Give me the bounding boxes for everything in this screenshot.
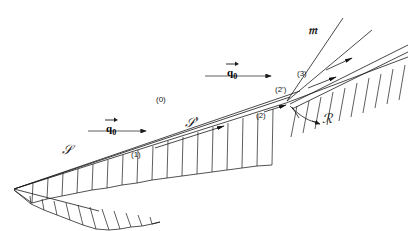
outer-upper-line [14, 91, 300, 189]
vector-overbar-icon [105, 117, 118, 122]
shock-diagram-svg [0, 0, 408, 231]
region-3-upper-line [290, 45, 408, 104]
hatch-lower-wedge-edge [14, 190, 160, 230]
label-mach-stem: 𝔪 [308, 24, 317, 36]
label-freestream-q0-upper: q0 [227, 62, 237, 81]
flow-arrow-region-3a [326, 58, 352, 70]
label-reflected-shock: ℛ [322, 112, 332, 125]
label-freestream-q0-lower: q0 [106, 118, 116, 137]
hatching-wedge-lower [30, 196, 152, 230]
label-region-3: (3) [297, 70, 307, 78]
label-region-2: (2) [256, 112, 266, 120]
label-region-1: (1) [131, 151, 141, 159]
label-region-2-prime: (2') [275, 86, 286, 94]
label-region-0: (0) [156, 96, 166, 104]
q-subscript-lower: 0 [112, 128, 116, 137]
figure-canvas: (0) (1) (2) (2') (3) 𝒮 𝒮' 𝔪 ℛ q0 q0 [0, 0, 408, 231]
wedge-lower-boundary [14, 189, 99, 211]
label-shock-S: 𝒮 [62, 143, 72, 156]
region-3-lower-line [292, 52, 408, 109]
vector-overbar-icon [226, 61, 239, 66]
label-shock-S-prime: 𝒮' [185, 116, 199, 129]
q-subscript-upper: 0 [233, 72, 237, 81]
flow-arrow-region-3b [308, 77, 336, 88]
hatch-lower-edge [14, 165, 272, 203]
